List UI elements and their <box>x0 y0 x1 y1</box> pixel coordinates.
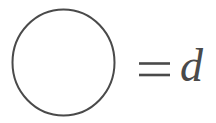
circle-equals-d-figure: d <box>0 0 216 123</box>
figure-canvas: d <box>0 0 216 123</box>
variable-d-label: d <box>180 40 204 91</box>
